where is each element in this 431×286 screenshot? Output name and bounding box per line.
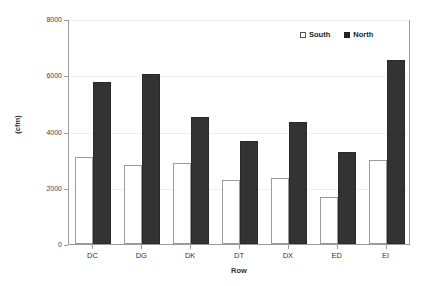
y-tick-mark xyxy=(64,189,68,190)
bar-north-dc xyxy=(93,82,111,244)
bar-south-dg xyxy=(124,165,142,244)
x-tick-mark xyxy=(288,245,289,249)
x-tick-mark xyxy=(92,245,93,249)
y-tick-label: 8000 xyxy=(20,16,62,24)
bar-south-ei xyxy=(369,160,387,244)
gridline xyxy=(69,20,409,21)
x-tick-label-dx: DX xyxy=(268,251,308,260)
plot-area xyxy=(68,20,410,245)
y-tick: 6000 xyxy=(0,72,62,80)
y-tick: 8000 xyxy=(0,16,62,24)
bar-south-ed xyxy=(320,197,338,244)
y-tick-label: 2000 xyxy=(20,185,62,193)
x-tick-label-ed: ED xyxy=(317,251,357,260)
bar-north-ed xyxy=(338,152,356,244)
legend-item-north: North xyxy=(344,30,373,39)
y-tick: 0 xyxy=(0,241,62,249)
y-tick-label: 6000 xyxy=(20,72,62,80)
bar-south-dx xyxy=(271,178,289,244)
y-tick-mark xyxy=(64,133,68,134)
y-tick-label: 0 xyxy=(20,241,62,249)
x-tick-mark xyxy=(337,245,338,249)
y-tick-mark xyxy=(64,245,68,246)
bar-north-dk xyxy=(191,117,209,244)
bar-north-dg xyxy=(142,74,160,244)
x-tick-mark xyxy=(190,245,191,249)
gridline xyxy=(69,133,409,134)
bar-chart: 02000400060008000 (cfm) DCDGDKDTDXEDEI R… xyxy=(0,0,431,286)
x-tick-label-ei: EI xyxy=(366,251,406,260)
bar-south-dk xyxy=(173,163,191,244)
x-tick-label-dk: DK xyxy=(170,251,210,260)
y-tick: 4000 xyxy=(0,129,62,137)
bar-south-dt xyxy=(222,180,240,244)
bar-north-dt xyxy=(240,141,258,245)
x-tick-label-dc: DC xyxy=(72,251,112,260)
x-tick-mark xyxy=(386,245,387,249)
y-tick-mark xyxy=(64,76,68,77)
legend-swatch-south-icon xyxy=(300,32,306,38)
gridline xyxy=(69,76,409,77)
legend-swatch-north-icon xyxy=(344,32,350,38)
y-tick-label: 4000 xyxy=(20,129,62,137)
x-tick-mark xyxy=(141,245,142,249)
legend-label-south: South xyxy=(309,30,330,39)
y-axis-label: (cfm) xyxy=(13,95,22,155)
y-tick-mark xyxy=(64,20,68,21)
x-tick-label-dt: DT xyxy=(219,251,259,260)
x-tick-label-dg: DG xyxy=(121,251,161,260)
legend-label-north: North xyxy=(353,30,373,39)
legend-item-south: South xyxy=(300,30,330,39)
x-axis-label: Row xyxy=(68,266,410,275)
x-tick-mark xyxy=(239,245,240,249)
legend: South North xyxy=(300,30,373,39)
bar-north-dx xyxy=(289,122,307,244)
bar-north-ei xyxy=(387,60,405,244)
y-tick: 2000 xyxy=(0,185,62,193)
bar-south-dc xyxy=(75,157,93,244)
